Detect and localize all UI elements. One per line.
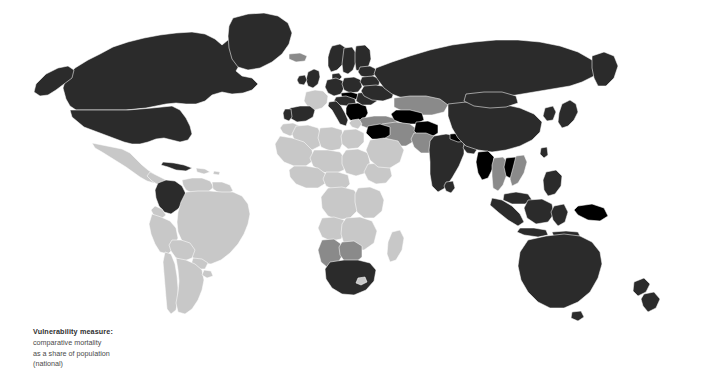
country-kenya-uganda-tanzania [355, 187, 384, 218]
world-map-graphic [0, 0, 703, 382]
country-portugal [283, 109, 292, 121]
country-poland [342, 77, 362, 93]
legend-caption-line-3: (national) [33, 359, 173, 370]
world-choropleth-map: Vulnerability measure: comparative morta… [0, 0, 703, 382]
legend-caption-line-1: comparative mortality [33, 338, 173, 349]
country-libya [318, 127, 344, 151]
legend-caption-line-2: as a share of population [33, 349, 173, 360]
legend-caption-title: Vulnerability measure: [33, 326, 173, 337]
legend-caption: Vulnerability measure: comparative morta… [33, 326, 173, 370]
country-puerto-rico [213, 171, 220, 175]
